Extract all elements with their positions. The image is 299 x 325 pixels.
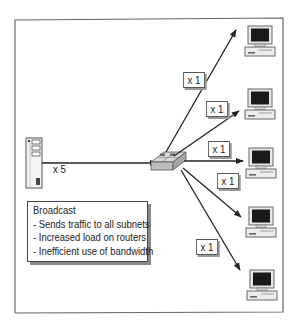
switch-icon [151, 152, 186, 170]
link-label-5: x 1 [196, 239, 218, 255]
note-item: - Increased load on routers [33, 231, 128, 245]
server-icon [26, 138, 42, 188]
diagram-svg [0, 0, 299, 325]
note-heading: Broadcast [33, 204, 128, 218]
computer-icon-5 [247, 270, 277, 300]
computer-icon-4 [246, 207, 276, 237]
diagram-canvas: x 5 x 1 x 1 x 1 x 1 x 1 Broadcast - Send… [0, 0, 299, 325]
link-to-computer-1 [166, 30, 236, 152]
computer-icon-3 [246, 148, 276, 178]
computer-icon-2 [245, 89, 275, 119]
source-count-label: x 5 [53, 163, 66, 175]
link-label-2: x 1 [206, 101, 228, 117]
link-label-4: x 1 [217, 173, 239, 189]
broadcast-note-box: Broadcast - Sends traffic to all subnets… [27, 201, 148, 262]
computer-icon-1 [245, 26, 275, 56]
note-item: - Inefficient use of bandwidth [33, 245, 128, 259]
link-label-3: x 1 [208, 141, 230, 157]
link-label-1: x 1 [183, 72, 205, 88]
note-item: - Sends traffic to all subnets [33, 218, 128, 232]
